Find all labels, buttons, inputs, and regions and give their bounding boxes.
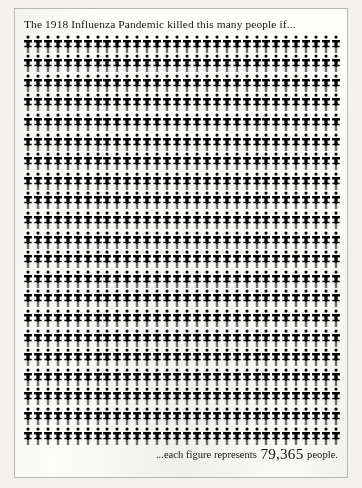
person-figure-icon	[302, 172, 310, 190]
person-figure-icon	[153, 172, 161, 190]
person-figure-icon	[332, 387, 340, 405]
pictogram-figure	[63, 54, 73, 74]
person-figure-icon	[34, 289, 42, 307]
pictogram-figure	[93, 171, 103, 191]
pictogram-figure	[252, 407, 262, 427]
person-figure-icon	[143, 270, 151, 288]
person-figure-icon	[213, 368, 221, 386]
person-figure-icon	[292, 113, 300, 131]
pictogram-figure	[33, 93, 43, 113]
pictogram-figure	[103, 230, 113, 250]
person-figure-icon	[133, 231, 141, 249]
pictogram-figure	[73, 309, 83, 329]
person-figure-icon	[203, 133, 211, 151]
person-figure-icon	[34, 407, 42, 425]
person-figure-icon	[54, 270, 62, 288]
person-figure-icon	[44, 35, 52, 53]
pictogram-figure	[262, 112, 272, 132]
pictogram-figure	[311, 152, 321, 172]
person-figure-icon	[203, 387, 211, 405]
pictogram-figure	[281, 132, 291, 152]
pictogram-figure	[132, 250, 142, 270]
pictogram-figure	[291, 152, 301, 172]
pictogram-figure	[202, 269, 212, 289]
pictogram-figure	[311, 328, 321, 348]
person-figure-icon	[243, 54, 251, 72]
person-figure-icon	[113, 211, 121, 229]
person-figure-icon	[173, 113, 181, 131]
person-figure-icon	[103, 289, 111, 307]
person-figure-icon	[64, 35, 72, 53]
person-figure-icon	[24, 250, 32, 268]
pictogram-figure	[301, 152, 311, 172]
person-figure-icon	[272, 270, 280, 288]
person-figure-icon	[322, 348, 330, 366]
pictogram-figure	[162, 309, 172, 329]
pictogram-figure	[301, 54, 311, 74]
person-figure-icon	[153, 152, 161, 170]
pictogram-figure	[222, 328, 232, 348]
pictogram-figure	[93, 230, 103, 250]
person-figure-icon	[84, 211, 92, 229]
person-figure-icon	[74, 270, 82, 288]
pictogram-figure	[301, 328, 311, 348]
pictogram-figure	[103, 54, 113, 74]
pictogram-figure	[152, 348, 162, 368]
pictogram-figure	[103, 210, 113, 230]
pictogram-figure	[281, 210, 291, 230]
person-figure-icon	[34, 35, 42, 53]
pictogram-figure	[242, 191, 252, 211]
pictogram-figure	[63, 426, 73, 446]
person-figure-icon	[223, 407, 231, 425]
pictogram-figure	[122, 289, 132, 309]
pictogram-figure	[162, 210, 172, 230]
pictogram-figure	[152, 407, 162, 427]
pictogram-figure	[152, 289, 162, 309]
pictogram-figure	[242, 289, 252, 309]
pictogram-figure	[23, 407, 33, 427]
caption-prefix: ...each figure represents	[156, 449, 257, 460]
person-figure-icon	[133, 250, 141, 268]
pictogram-figure	[83, 387, 93, 407]
pictogram-figure	[212, 210, 222, 230]
pictogram-figure	[53, 112, 63, 132]
person-figure-icon	[233, 74, 241, 92]
pictogram-figure	[162, 171, 172, 191]
person-figure-icon	[282, 211, 290, 229]
person-figure-icon	[143, 427, 151, 445]
person-figure-icon	[34, 270, 42, 288]
person-figure-icon	[173, 191, 181, 209]
person-figure-icon	[262, 93, 270, 111]
person-figure-icon	[183, 250, 191, 268]
pictogram-figure	[281, 93, 291, 113]
person-figure-icon	[312, 329, 320, 347]
pictogram-figure	[192, 387, 202, 407]
pictogram-figure	[321, 210, 331, 230]
pictogram-figure	[242, 309, 252, 329]
person-figure-icon	[103, 231, 111, 249]
pictogram-figure	[53, 426, 63, 446]
person-figure-icon	[123, 54, 131, 72]
person-figure-icon	[34, 309, 42, 327]
pictogram-figure	[212, 191, 222, 211]
pictogram-figure	[83, 407, 93, 427]
person-figure-icon	[332, 427, 340, 445]
pictogram-figure	[132, 171, 142, 191]
person-figure-icon	[34, 54, 42, 72]
pictogram-figure	[43, 230, 53, 250]
pictogram-figure	[132, 230, 142, 250]
person-figure-icon	[252, 348, 260, 366]
pictogram-figure	[103, 407, 113, 427]
pictogram-figure	[103, 112, 113, 132]
pictogram-figure	[262, 289, 272, 309]
pictogram-figure	[132, 210, 142, 230]
pictogram-figure	[252, 171, 262, 191]
pictogram-figure	[222, 152, 232, 172]
pictogram-figure	[301, 171, 311, 191]
person-figure-icon	[24, 387, 32, 405]
person-figure-icon	[143, 368, 151, 386]
pictogram-figure	[53, 309, 63, 329]
pictogram-figure	[331, 210, 341, 230]
person-figure-icon	[223, 35, 231, 53]
person-figure-icon	[213, 133, 221, 151]
